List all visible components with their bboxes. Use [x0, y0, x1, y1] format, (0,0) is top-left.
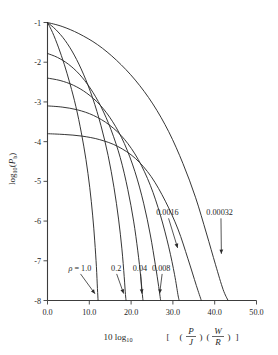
- y-tick-label: -2: [34, 58, 41, 67]
- y-tick-label: -8: [34, 297, 41, 306]
- y-tick-label: -3: [34, 98, 41, 107]
- y-tick-label: -4: [34, 138, 41, 147]
- y-axis-ticks: -1-2-3-4-5-6-7-8: [34, 19, 47, 306]
- svg-text:(: (: [207, 332, 210, 342]
- annotation-arrow-head: [175, 243, 179, 248]
- x-axis-ticks: 0.010.020.030.040.050.0: [42, 301, 263, 317]
- curve-group: [48, 23, 229, 301]
- chart-figure: -1-2-3-4-5-6-7-8 0.010.020.030.040.050.0…: [0, 0, 278, 355]
- y-tick-label: -1: [34, 19, 41, 28]
- x-axis-label: 10 log10 [ ( P J ) ( W: [104, 326, 239, 347]
- annotation-arrow-head: [219, 250, 223, 254]
- curve-rho-1.0: [48, 23, 99, 301]
- svg-text:): ): [200, 332, 203, 342]
- x-tick-label: 0.0: [42, 308, 52, 317]
- svg-text:P: P: [187, 326, 194, 336]
- curve-annotation-label: 0.008: [152, 264, 170, 273]
- curve-annotation-label: 0.2: [111, 264, 121, 273]
- curve-annotation-label: ρ = 1.0: [67, 264, 91, 273]
- annotation-arrow-head: [91, 289, 95, 294]
- annotation-arrow-head: [140, 289, 144, 293]
- annotation-group: ρ = 1.00.20.040.0080.00160.00032: [67, 208, 233, 294]
- svg-text:(: (: [180, 332, 183, 342]
- svg-text:W: W: [214, 326, 223, 336]
- x-tick-label: 10.0: [82, 308, 96, 317]
- curve-annotation-label: 0.04: [133, 264, 147, 273]
- curve-rho-0.04: [48, 53, 144, 300]
- x-tick-label: 20.0: [124, 308, 138, 317]
- curve-rho-0.00032: [48, 23, 229, 301]
- y-tick-label: -6: [34, 217, 41, 226]
- y-tick-label: -7: [34, 257, 41, 266]
- y-tick-label: -5: [34, 177, 41, 186]
- curve-annotation-label: 0.0016: [156, 208, 179, 217]
- svg-text:[: [: [167, 332, 170, 342]
- svg-text:J: J: [189, 337, 194, 347]
- annotation-arrow-head: [158, 289, 162, 293]
- curve-annotation-label: 0.00032: [206, 208, 233, 217]
- svg-text:10 log10: 10 log10: [104, 332, 133, 343]
- annotation-leader-line: [169, 218, 178, 248]
- x-tick-label: 30.0: [166, 308, 180, 317]
- svg-text:): ): [228, 332, 231, 342]
- curve-rho-0.2: [48, 23, 127, 301]
- x-tick-label: 50.0: [249, 308, 263, 317]
- y-axis-label: log10(Pb): [7, 153, 18, 185]
- svg-text:]: ]: [236, 332, 239, 342]
- svg-text:R: R: [214, 337, 221, 347]
- x-tick-label: 40.0: [208, 308, 222, 317]
- annotation-arrow-head: [120, 289, 124, 294]
- svg-text:log10(Pb): log10(Pb): [7, 153, 18, 185]
- ber-vs-jamming-margin-chart: -1-2-3-4-5-6-7-8 0.010.020.030.040.050.0…: [0, 0, 278, 355]
